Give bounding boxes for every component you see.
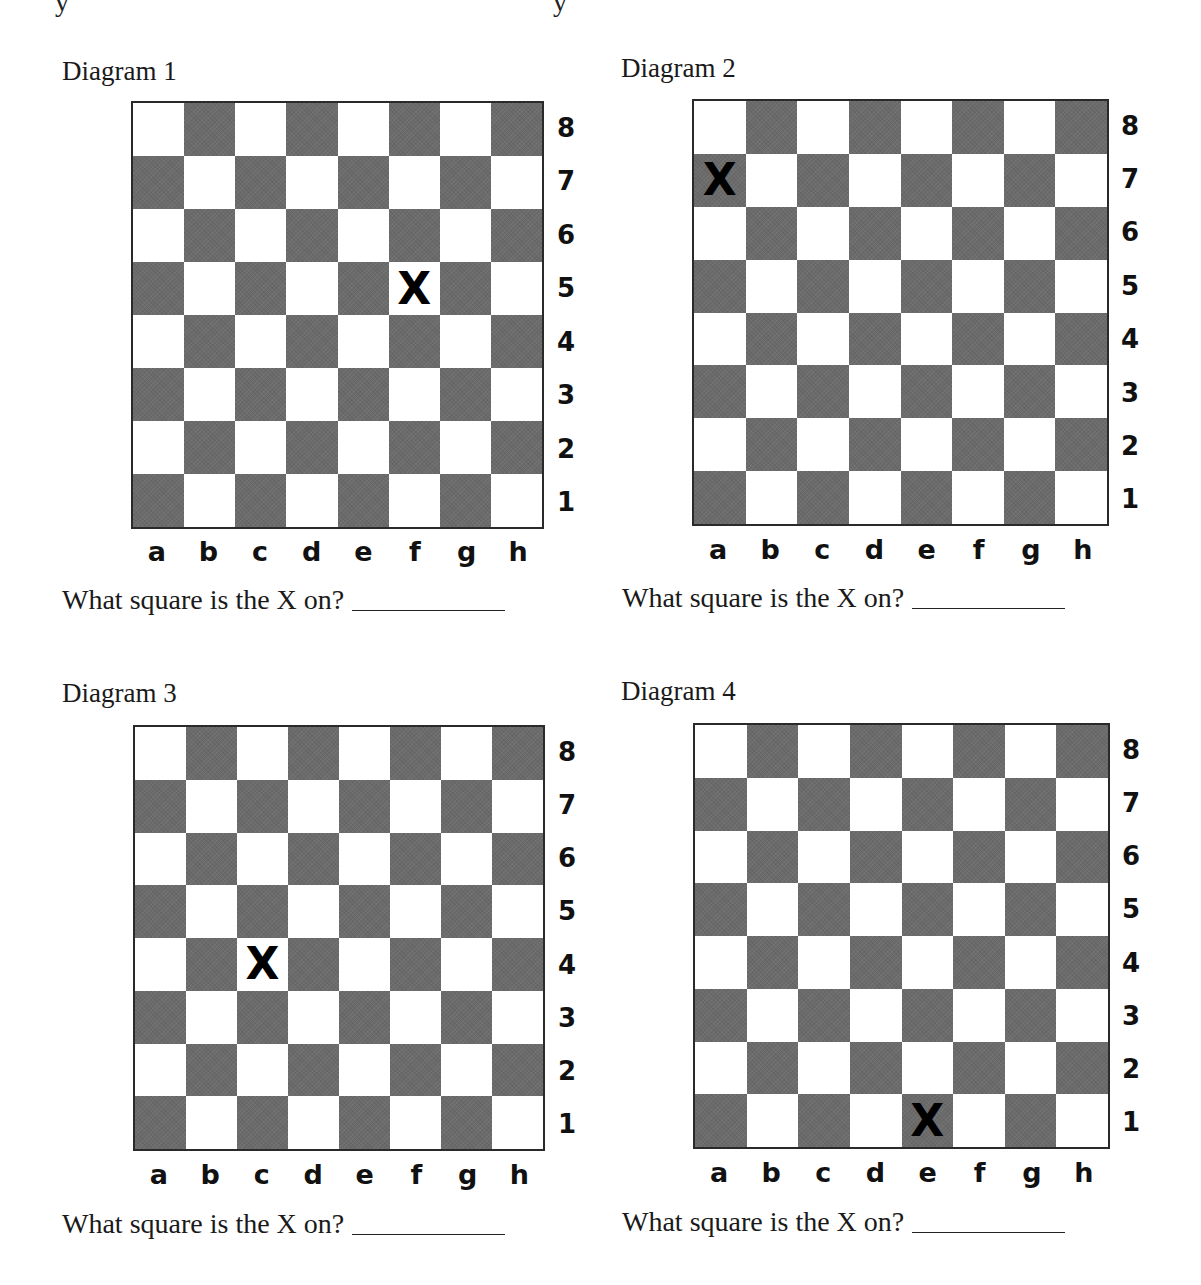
square-b2 [184, 421, 235, 474]
question-text: What square is the X on? [62, 586, 344, 614]
file-label: h [1057, 536, 1109, 563]
answer-blank[interactable] [352, 1233, 505, 1235]
square-f4 [953, 936, 1005, 989]
square-e4 [902, 936, 954, 989]
square-b7 [746, 154, 798, 207]
file-label: e [339, 1161, 391, 1188]
square-f8 [390, 727, 441, 780]
square-h1 [1056, 1094, 1108, 1147]
square-b3 [184, 368, 235, 421]
square-h7 [492, 780, 543, 833]
square-e6 [338, 209, 389, 262]
square-d4 [288, 938, 339, 991]
square-c8 [797, 101, 849, 154]
question: What square is the X on? [622, 1208, 1065, 1236]
rank-label: 4 [1122, 936, 1140, 989]
square-d2 [849, 418, 901, 471]
file-label: b [183, 538, 235, 565]
file-label: b [744, 536, 796, 563]
square-g8 [441, 727, 492, 780]
square-c2 [798, 1042, 850, 1095]
rank-label: 2 [557, 422, 575, 476]
square-h1 [491, 474, 542, 527]
answer-blank[interactable] [352, 609, 505, 611]
square-g7 [1004, 154, 1056, 207]
question: What square is the X on? [622, 584, 1065, 612]
file-label: g [1006, 1159, 1058, 1186]
square-b8 [186, 727, 237, 780]
file-label: c [796, 536, 848, 563]
square-e3 [902, 989, 954, 1042]
rank-label: 7 [1121, 152, 1139, 205]
square-d7 [286, 156, 337, 209]
rank-label: 7 [1122, 776, 1140, 829]
square-a1 [694, 471, 746, 524]
square-d5 [288, 885, 339, 938]
square-b1 [184, 474, 235, 527]
square-b3 [747, 989, 799, 1042]
square-c7 [797, 154, 849, 207]
square-a1 [133, 474, 184, 527]
square-b1 [186, 1096, 237, 1149]
square-e8 [338, 103, 389, 156]
square-c6 [798, 831, 850, 884]
square-c4 [235, 315, 286, 368]
square-d3 [286, 368, 337, 421]
rank-label: 1 [558, 1098, 576, 1151]
square-g1 [1005, 1094, 1057, 1147]
file-label: b [185, 1161, 237, 1188]
rank-label: 6 [558, 832, 576, 885]
square-f6 [390, 833, 441, 886]
answer-blank[interactable] [912, 607, 1065, 609]
answer-blank[interactable] [912, 1231, 1065, 1233]
square-c3 [235, 368, 286, 421]
square-h3 [492, 991, 543, 1044]
square-g5 [440, 262, 491, 315]
file-label: d [288, 1161, 340, 1188]
square-d8 [849, 101, 901, 154]
square-g2 [440, 421, 491, 474]
square-a5 [133, 262, 184, 315]
square-a7 [695, 778, 747, 831]
square-h7 [1056, 778, 1108, 831]
chessboard: X [131, 101, 544, 529]
square-h8 [491, 103, 542, 156]
square-e6 [901, 207, 953, 260]
square-a3 [133, 368, 184, 421]
square-f2 [953, 1042, 1005, 1095]
file-label: f [953, 536, 1005, 563]
square-a4 [694, 313, 746, 366]
square-g8 [1005, 725, 1057, 778]
square-a7 [133, 156, 184, 209]
rank-label: 3 [1122, 989, 1140, 1042]
square-c8 [798, 725, 850, 778]
square-f3 [953, 989, 1005, 1042]
square-g5 [1005, 883, 1057, 936]
square-e4 [901, 313, 953, 366]
file-label: b [745, 1159, 797, 1186]
file-label: a [131, 538, 183, 565]
square-g7 [441, 780, 492, 833]
square-f1 [952, 471, 1004, 524]
square-g1 [1004, 471, 1056, 524]
square-c8 [237, 727, 288, 780]
rank-label: 6 [1121, 206, 1139, 259]
square-g2 [1005, 1042, 1057, 1095]
square-h6 [492, 833, 543, 886]
square-f3 [390, 991, 441, 1044]
square-f7 [953, 778, 1005, 831]
square-d1 [288, 1096, 339, 1149]
square-c1 [237, 1096, 288, 1149]
square-d6 [288, 833, 339, 886]
square-d2 [288, 1044, 339, 1097]
square-h3 [1056, 989, 1108, 1042]
square-h5 [491, 262, 542, 315]
square-e1 [339, 1096, 390, 1149]
square-f6 [389, 209, 440, 262]
square-a2 [695, 1042, 747, 1095]
square-a5 [694, 260, 746, 313]
square-g5 [1004, 260, 1056, 313]
square-g7 [440, 156, 491, 209]
square-c1 [797, 471, 849, 524]
square-c5 [798, 883, 850, 936]
